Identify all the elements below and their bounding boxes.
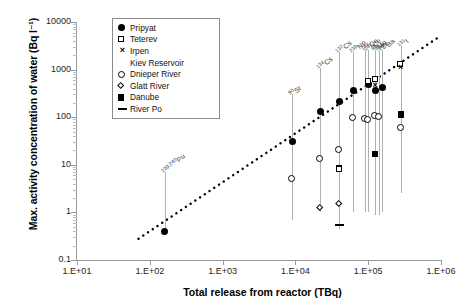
legend-label: Irpen [130, 46, 149, 56]
data-point-filled-circle [289, 138, 296, 145]
legend-label: Glatt River [130, 81, 169, 91]
legend-label: Danube [130, 92, 159, 102]
y-tick-label: 1000 [0, 64, 80, 74]
x-tick-label: 1.E+01 [42, 266, 112, 276]
x-tick [295, 260, 296, 265]
x-axis-title: Total release from reactor (TBq) [77, 286, 448, 298]
isotope-spine [292, 94, 293, 219]
x-tick-label: 1.E+04 [260, 266, 330, 276]
filled-circle-icon [118, 22, 130, 34]
legend-label: Dnieper River [130, 69, 181, 79]
open-circle-icon [118, 68, 130, 80]
data-point-filled-circle [372, 87, 379, 94]
x-tick [368, 260, 369, 265]
x-tick-label: 1.E+05 [333, 266, 403, 276]
x-axis-line [77, 260, 442, 261]
data-point-open-circle [375, 113, 382, 120]
legend-label: Kiev Reservoir [130, 58, 184, 68]
data-point-filled-circle [161, 228, 168, 235]
legend-item-river-po[interactable]: River Po [118, 103, 215, 115]
legend-item-kiev-reservoir[interactable]: Kiev Reservoir [118, 57, 215, 69]
isotope-spine [320, 68, 321, 213]
legend-label: Teterev [130, 34, 157, 44]
filled-triangle-icon [118, 57, 130, 69]
dash-icon [118, 103, 130, 115]
data-point-open-circle [288, 175, 295, 182]
x-tick [150, 260, 151, 265]
x-tick [441, 260, 442, 265]
y-tick-label: 1 [0, 206, 80, 216]
x-tick-label: 1.E+03 [188, 266, 258, 276]
data-point-open-square [365, 78, 371, 84]
isotope-spine [379, 50, 380, 215]
isotope-spine [365, 50, 366, 213]
isotope-spine [165, 172, 166, 231]
chart-legend: PripyatTeterev×IrpenKiev ReservoirDniepe… [112, 18, 220, 119]
legend-item-glatt-river[interactable]: Glatt River [118, 80, 215, 92]
legend-label: River Po [130, 104, 162, 114]
data-point-dash [335, 224, 344, 226]
x-tick [223, 260, 224, 265]
data-point-open-circle [397, 124, 404, 131]
legend-item-irpen[interactable]: ×Irpen [118, 45, 215, 57]
isotope-spine [353, 52, 354, 213]
isotope-spine [375, 50, 376, 215]
legend-item-danube[interactable]: Danube [118, 92, 215, 104]
legend-item-teterev[interactable]: Teterev [118, 34, 215, 46]
y-tick-label: 10 [0, 159, 80, 169]
data-point-filled-circle [379, 84, 386, 91]
open-diamond-icon [118, 80, 130, 92]
x-tick-label: 1.E+06 [406, 266, 460, 276]
data-point-open-circle [364, 116, 371, 123]
data-point-filled-square [372, 151, 378, 157]
data-point-open-square [336, 166, 342, 172]
isotope-spine [368, 50, 369, 213]
y-tick-label: 100 [0, 111, 80, 121]
legend-item-pripyat[interactable]: Pripyat [118, 22, 215, 34]
y-tick-label: 10000 [0, 16, 80, 26]
filled-square-icon [118, 92, 130, 104]
data-point-cross: × [396, 63, 405, 72]
isotope-spine [382, 50, 383, 213]
data-point-filled-square [398, 111, 404, 117]
y-tick-label: 0.1 [0, 254, 80, 264]
open-square-icon [118, 34, 130, 46]
legend-label: Pripyat [130, 23, 156, 33]
legend-item-dnieper-river[interactable]: Dnieper River [118, 68, 215, 80]
x-tick-label: 1.E+02 [115, 266, 185, 276]
data-point-filled-circle [350, 87, 357, 94]
cross-icon: × [118, 45, 130, 57]
x-tick [77, 260, 78, 265]
